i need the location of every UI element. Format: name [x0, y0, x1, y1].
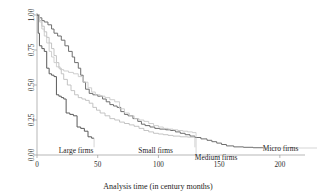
- km-curves: [37, 15, 263, 148]
- annotation-large-firms: Large firms: [59, 146, 94, 155]
- y-tick-label: 0.50: [28, 78, 36, 91]
- km-curve-small-firms: [37, 15, 195, 138]
- survival-chart: 0.000.250.500.751.00 050100150200 Large …: [0, 0, 317, 196]
- y-axis: 0.000.250.500.751.00: [28, 8, 37, 161]
- y-tick-label: 0.25: [28, 113, 36, 126]
- x-axis-title: Analysis time (in century months): [103, 182, 213, 191]
- x-tick-label: 50: [94, 161, 102, 169]
- annotation-small-firms: Small firms: [138, 146, 173, 155]
- series-annotations: Large firmsSmall firmsMedium firmsMicro …: [59, 144, 299, 162]
- km-curve-micro-firms: [37, 15, 263, 148]
- annotation-micro-firms: Micro firms: [263, 144, 299, 153]
- y-tick-label: 1.00: [28, 8, 36, 21]
- x-tick-label: 200: [274, 161, 285, 169]
- annotation-medium-firms: Medium firms: [195, 153, 238, 162]
- chart-canvas: 0.000.250.500.751.00 050100150200 Large …: [0, 0, 317, 196]
- km-curve-large-firms: [37, 15, 94, 138]
- x-axis: 050100150200: [35, 155, 305, 169]
- y-tick-label: 0.00: [28, 148, 36, 161]
- y-tick-label: 0.75: [28, 43, 36, 56]
- x-tick-label: 0: [35, 161, 39, 169]
- x-tick-label: 100: [153, 161, 164, 169]
